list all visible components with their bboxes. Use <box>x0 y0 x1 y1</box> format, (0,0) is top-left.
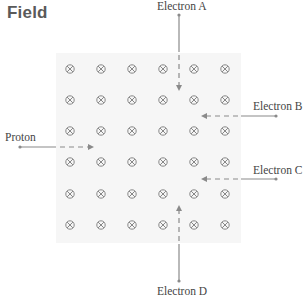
into-page-icon <box>97 221 105 229</box>
electron-a-trajectory <box>176 13 182 91</box>
into-page-icon <box>128 96 136 104</box>
into-page-icon <box>66 65 74 73</box>
into-page-icon <box>190 158 198 166</box>
into-page-icon <box>159 221 167 229</box>
electron-b-label: Electron B <box>253 100 303 112</box>
proton-trajectory <box>18 144 94 150</box>
into-page-icon <box>159 190 167 198</box>
into-page-icon <box>128 65 136 73</box>
electron-a-label: Electron A <box>157 0 207 12</box>
into-page-icon <box>128 221 136 229</box>
electron-d-label: Electron D <box>157 285 207 297</box>
into-page-icon <box>190 221 198 229</box>
electron-b-trajectory <box>201 113 278 119</box>
into-page-icon <box>159 127 167 135</box>
into-page-icon <box>159 65 167 73</box>
into-page-icon <box>66 96 74 104</box>
into-page-icon <box>221 65 229 73</box>
into-page-icon <box>66 221 74 229</box>
into-page-icon <box>97 65 105 73</box>
electron-d-trajectory <box>176 205 182 283</box>
into-page-icon <box>66 127 74 135</box>
into-page-icon <box>221 221 229 229</box>
into-page-icon <box>128 127 136 135</box>
into-page-icon <box>128 158 136 166</box>
into-page-icon <box>97 190 105 198</box>
into-page-icon <box>97 158 105 166</box>
into-page-icon <box>190 96 198 104</box>
into-page-icon <box>190 65 198 73</box>
field-diagram <box>0 0 308 301</box>
into-page-icon <box>221 190 229 198</box>
into-page-icon <box>97 127 105 135</box>
into-page-icon <box>66 158 74 166</box>
into-page-icon <box>97 96 105 104</box>
into-page-icon <box>128 190 136 198</box>
into-page-icon <box>190 127 198 135</box>
into-page-icon <box>221 158 229 166</box>
into-page-icon <box>221 127 229 135</box>
into-page-icon <box>66 190 74 198</box>
into-page-icon <box>190 190 198 198</box>
into-page-icon <box>159 158 167 166</box>
into-page-icon <box>159 96 167 104</box>
into-page-icon <box>221 96 229 104</box>
proton-label: Proton <box>5 131 36 143</box>
electron-c-trajectory <box>201 176 278 182</box>
electron-c-label: Electron C <box>253 164 303 176</box>
